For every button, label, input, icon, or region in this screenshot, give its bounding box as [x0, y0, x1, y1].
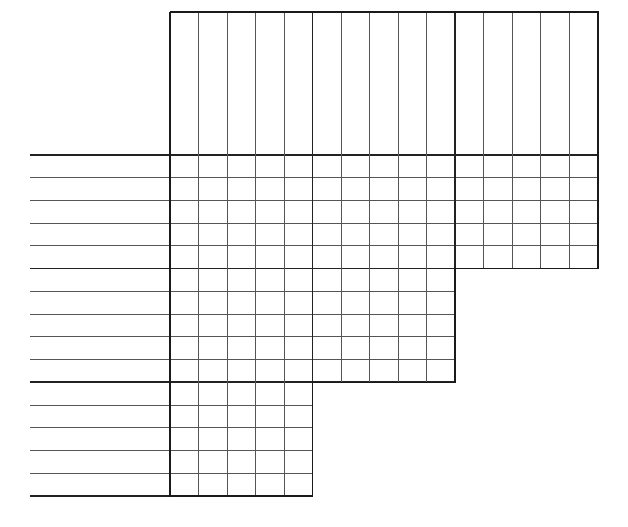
- grid-cell-r5-c13[interactable]: [512, 246, 541, 269]
- grid-cell-r2-c10[interactable]: [427, 178, 456, 201]
- column-header-cell-5[interactable]: [284, 12, 313, 155]
- grid-cell-r8-c6[interactable]: [313, 314, 342, 337]
- grid-cell-r5-c10[interactable]: [427, 246, 456, 269]
- grid-cell-r15-c4[interactable]: [256, 473, 285, 496]
- label-field-row-8[interactable]: [30, 314, 170, 337]
- grid-cell-r6-c10[interactable]: [427, 269, 456, 292]
- grid-cell-r1-c12[interactable]: [484, 155, 513, 178]
- grid-cell-r12-c3[interactable]: [227, 405, 256, 428]
- grid-cell-r2-c8[interactable]: [370, 178, 399, 201]
- grid-cell-r11-c3[interactable]: [227, 382, 256, 405]
- column-header-cell-11[interactable]: [455, 12, 484, 155]
- grid-cell-r10-c7[interactable]: [341, 360, 370, 383]
- grid-cell-r9-c9[interactable]: [398, 337, 427, 360]
- grid-cell-r11-c2[interactable]: [199, 382, 228, 405]
- label-field-row-13[interactable]: [30, 428, 170, 451]
- grid-cell-r9-c5[interactable]: [284, 337, 313, 360]
- grid-cell-r13-c4[interactable]: [256, 428, 285, 451]
- grid-cell-r12-c1[interactable]: [170, 405, 199, 428]
- grid-cell-r6-c1[interactable]: [170, 269, 199, 292]
- grid-cell-r2-c15[interactable]: [569, 178, 598, 201]
- grid-cell-r3-c10[interactable]: [427, 201, 456, 224]
- grid-cell-r15-c3[interactable]: [227, 473, 256, 496]
- grid-cell-r5-c12[interactable]: [484, 246, 513, 269]
- grid-cell-r7-c8[interactable]: [370, 291, 399, 314]
- grid-cell-r4-c11[interactable]: [455, 223, 484, 246]
- grid-cell-r12-c2[interactable]: [199, 405, 228, 428]
- grid-cell-r3-c15[interactable]: [569, 201, 598, 224]
- grid-cell-r5-c14[interactable]: [541, 246, 570, 269]
- grid-cell-r9-c2[interactable]: [199, 337, 228, 360]
- column-header-cell-13[interactable]: [512, 12, 541, 155]
- grid-cell-r1-c2[interactable]: [199, 155, 228, 178]
- grid-cell-r7-c10[interactable]: [427, 291, 456, 314]
- grid-cell-r10-c9[interactable]: [398, 360, 427, 383]
- column-header-cell-1[interactable]: [170, 12, 199, 155]
- grid-cell-r14-c1[interactable]: [170, 450, 199, 473]
- grid-cell-r5-c7[interactable]: [341, 246, 370, 269]
- grid-cell-r2-c1[interactable]: [170, 178, 199, 201]
- grid-cell-r7-c3[interactable]: [227, 291, 256, 314]
- grid-cell-r4-c2[interactable]: [199, 223, 228, 246]
- grid-cell-r8-c3[interactable]: [227, 314, 256, 337]
- grid-cell-r2-c5[interactable]: [284, 178, 313, 201]
- grid-cell-r8-c10[interactable]: [427, 314, 456, 337]
- label-field-row-4[interactable]: [30, 223, 170, 246]
- grid-cell-r3-c6[interactable]: [313, 201, 342, 224]
- grid-cell-r7-c1[interactable]: [170, 291, 199, 314]
- grid-cell-r6-c4[interactable]: [256, 269, 285, 292]
- grid-cell-r3-c8[interactable]: [370, 201, 399, 224]
- grid-cell-r14-c3[interactable]: [227, 450, 256, 473]
- grid-cell-r8-c9[interactable]: [398, 314, 427, 337]
- grid-cell-r9-c6[interactable]: [313, 337, 342, 360]
- grid-cell-r8-c7[interactable]: [341, 314, 370, 337]
- grid-cell-r13-c2[interactable]: [199, 428, 228, 451]
- grid-cell-r7-c6[interactable]: [313, 291, 342, 314]
- grid-cell-r10-c8[interactable]: [370, 360, 399, 383]
- grid-cell-r10-c6[interactable]: [313, 360, 342, 383]
- column-header-cell-6[interactable]: [313, 12, 342, 155]
- grid-cell-r15-c2[interactable]: [199, 473, 228, 496]
- column-header-cell-10[interactable]: [427, 12, 456, 155]
- column-header-cell-9[interactable]: [398, 12, 427, 155]
- grid-cell-r6-c5[interactable]: [284, 269, 313, 292]
- label-field-row-3[interactable]: [30, 201, 170, 224]
- grid-cell-r1-c3[interactable]: [227, 155, 256, 178]
- grid-cell-r1-c8[interactable]: [370, 155, 399, 178]
- grid-cell-r13-c1[interactable]: [170, 428, 199, 451]
- grid-cell-r3-c11[interactable]: [455, 201, 484, 224]
- grid-cell-r5-c3[interactable]: [227, 246, 256, 269]
- grid-cell-r2-c12[interactable]: [484, 178, 513, 201]
- grid-cell-r6-c3[interactable]: [227, 269, 256, 292]
- grid-cell-r8-c5[interactable]: [284, 314, 313, 337]
- grid-cell-r15-c1[interactable]: [170, 473, 199, 496]
- grid-cell-r5-c11[interactable]: [455, 246, 484, 269]
- grid-cell-r4-c3[interactable]: [227, 223, 256, 246]
- column-header-cell-2[interactable]: [199, 12, 228, 155]
- grid-cell-r1-c1[interactable]: [170, 155, 199, 178]
- grid-cell-r13-c5[interactable]: [284, 428, 313, 451]
- grid-cell-r7-c5[interactable]: [284, 291, 313, 314]
- grid-cell-r14-c4[interactable]: [256, 450, 285, 473]
- grid-cell-r12-c4[interactable]: [256, 405, 285, 428]
- column-header-cell-3[interactable]: [227, 12, 256, 155]
- grid-cell-r12-c5[interactable]: [284, 405, 313, 428]
- grid-cell-r2-c4[interactable]: [256, 178, 285, 201]
- grid-cell-r2-c6[interactable]: [313, 178, 342, 201]
- grid-cell-r1-c15[interactable]: [569, 155, 598, 178]
- grid-cell-r4-c7[interactable]: [341, 223, 370, 246]
- grid-cell-r3-c13[interactable]: [512, 201, 541, 224]
- grid-cell-r4-c9[interactable]: [398, 223, 427, 246]
- grid-cell-r10-c3[interactable]: [227, 360, 256, 383]
- grid-cell-r3-c12[interactable]: [484, 201, 513, 224]
- grid-cell-r5-c4[interactable]: [256, 246, 285, 269]
- grid-cell-r1-c5[interactable]: [284, 155, 313, 178]
- grid-cell-r8-c4[interactable]: [256, 314, 285, 337]
- label-field-row-9[interactable]: [30, 337, 170, 360]
- grid-cell-r1-c6[interactable]: [313, 155, 342, 178]
- grid-cell-r9-c8[interactable]: [370, 337, 399, 360]
- grid-cell-r1-c14[interactable]: [541, 155, 570, 178]
- grid-cell-r4-c5[interactable]: [284, 223, 313, 246]
- grid-cell-r10-c5[interactable]: [284, 360, 313, 383]
- grid-cell-r4-c13[interactable]: [512, 223, 541, 246]
